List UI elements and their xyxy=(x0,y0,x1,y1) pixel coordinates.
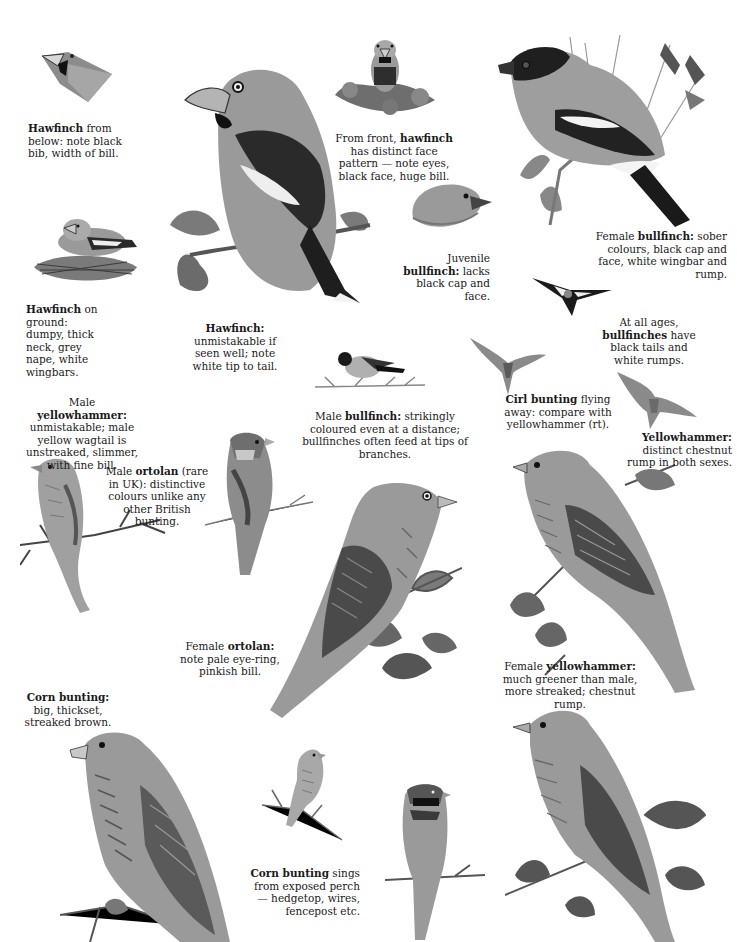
caption-male-ortolan: Male ortolan (rare in UK): distinctive c… xyxy=(102,465,212,528)
caption-bullfinch-ages: At all ages, bullfinches have black tail… xyxy=(600,316,698,366)
caption-female-ortolan: Female ortolan: note pale eye-ring, pink… xyxy=(178,640,282,678)
caption-corn-bunting-sings: Corn bunting sings from exposed perch — … xyxy=(250,867,360,917)
cirl-bunting-male-illustration xyxy=(385,780,485,942)
yellowhammer-flight-illustration xyxy=(615,367,700,432)
female-yellowhammer-large-illustration xyxy=(505,445,705,695)
caption-hawfinch-below: Hawfinch from below: note black bib, wid… xyxy=(28,122,138,160)
caption-corn-bunting: Corn bunting: big, thickset, streaked br… xyxy=(18,691,118,729)
caption-male-yellowhammer: Male yellowhammer: unmistakable; male ye… xyxy=(24,396,140,471)
caption-female-bullfinch: Female bullfinch: sober colours, black c… xyxy=(595,230,727,280)
caption-female-yellowhammer: Female yellowhammer: much greener than m… xyxy=(500,660,640,710)
hawfinch-nest-illustration xyxy=(32,212,142,287)
corn-bunting-large-illustration xyxy=(60,725,240,942)
cirl-bunting-flight-illustration xyxy=(468,333,548,398)
caption-yellowhammer-rump: Yellowhammer: distinct chestnut rump in … xyxy=(620,431,732,469)
caption-hawfinch-ground: Hawfinch on ground: dumpy, thick neck, g… xyxy=(26,303,108,378)
male-bullfinch-small-illustration xyxy=(315,347,425,397)
hawfinch-head-below-illustration xyxy=(38,44,118,106)
female-ortolan-large-illustration xyxy=(262,478,462,723)
hawfinch-front-small-illustration xyxy=(330,35,440,120)
juvenile-bullfinch-head-illustration xyxy=(408,178,493,233)
caption-hawfinch-main: Hawfinch: unmistakable if seen well; not… xyxy=(180,322,290,372)
female-bullfinch-large-illustration xyxy=(490,35,720,230)
cirl-bunting-female-illustration xyxy=(505,705,715,942)
caption-juvenile-bullfinch: Juvenile bullfinch: lacks black cap and … xyxy=(388,252,490,302)
corn-bunting-small-illustration xyxy=(262,745,347,845)
caption-cirl-flying: Cirl bunting flying away: compare with y… xyxy=(498,393,618,431)
caption-hawfinch-front: From front, hawfinch has distinct face p… xyxy=(330,132,458,182)
caption-male-bullfinch: Male bullfinch: strikingly coloured even… xyxy=(300,410,470,460)
